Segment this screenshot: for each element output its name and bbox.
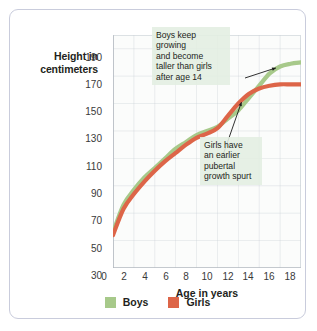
y-tick-70: 70 (72, 216, 102, 226)
y-tick-50: 50 (72, 244, 102, 254)
chart-legend: Boys Girls (9, 296, 306, 308)
legend-swatch-boys (105, 297, 116, 308)
y-tick-90: 90 (72, 189, 102, 199)
x-tick-18: 18 (282, 272, 298, 282)
legend-item-boys: Boys (105, 296, 149, 308)
annotation-girls-note: Girls have an earlier pubertal growth sp… (200, 137, 262, 185)
y-axis-title-line-2: centimeters (22, 63, 98, 76)
x-tick-16: 16 (261, 272, 277, 282)
legend-label-girls: Girls (186, 296, 210, 308)
y-tick-110: 110 (72, 162, 102, 172)
x-tick-0: 0 (96, 272, 112, 282)
y-tick-170: 170 (72, 80, 102, 90)
x-tick-14: 14 (240, 272, 256, 282)
x-tick-12: 12 (220, 272, 236, 282)
legend-swatch-girls (168, 297, 179, 308)
y-tick-190: 190 (72, 53, 102, 63)
legend-label-boys: Boys (123, 296, 149, 308)
x-tick-4: 4 (137, 272, 153, 282)
y-tick-130: 130 (72, 134, 102, 144)
x-tick-10: 10 (199, 272, 215, 282)
x-tick-6: 6 (158, 272, 174, 282)
x-tick-8: 8 (178, 272, 194, 282)
x-tick-2: 2 (116, 272, 132, 282)
legend-item-girls: Girls (168, 296, 210, 308)
y-tick-150: 150 (72, 107, 102, 117)
annotation-boys-note: Boys keep growing and become taller than… (152, 27, 230, 85)
